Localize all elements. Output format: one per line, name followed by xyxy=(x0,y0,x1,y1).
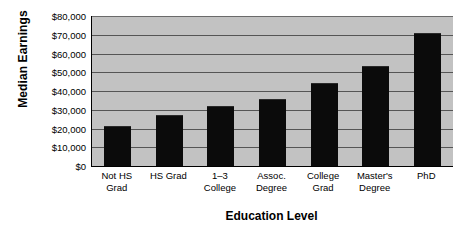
x-tick-label: 1–3 College xyxy=(194,170,246,193)
bars-group xyxy=(92,16,453,166)
x-tick-label-line: Not HS xyxy=(92,170,142,182)
x-tick-label-line: HS Grad xyxy=(144,170,194,182)
y-axis-title: Median Earnings xyxy=(16,0,30,134)
y-tick-label: $40,000 xyxy=(30,86,86,97)
y-tick-label: $10,000 xyxy=(30,142,86,153)
x-tick-label-line: Master's xyxy=(350,170,400,182)
bar-slot xyxy=(350,16,402,166)
x-tick-label: HS Grad xyxy=(143,170,195,193)
bar-slot xyxy=(401,16,453,166)
y-tick-label: $70,000 xyxy=(30,29,86,40)
y-tick-label: $30,000 xyxy=(30,104,86,115)
x-tick-label: CollegeGrad xyxy=(297,170,349,193)
y-tick-label: $20,000 xyxy=(30,123,86,134)
bar xyxy=(207,106,234,166)
y-tick-label: $0 xyxy=(30,161,86,172)
bar xyxy=(259,99,286,166)
bar xyxy=(362,66,389,166)
y-tick-label: $80,000 xyxy=(30,11,86,22)
bar-slot xyxy=(247,16,299,166)
x-tick-label: PhD xyxy=(400,170,452,193)
plot-area xyxy=(91,16,453,167)
y-tick-label: $50,000 xyxy=(30,67,86,78)
x-tick-label: Master'sDegree xyxy=(349,170,401,193)
bar-slot xyxy=(195,16,247,166)
x-tick-label-line: 1–3 College xyxy=(195,170,245,193)
bar-slot xyxy=(144,16,196,166)
x-tick-label-line: Grad xyxy=(298,182,348,194)
x-tick-label-line: College xyxy=(298,170,348,182)
x-axis-title: Education Level xyxy=(91,209,452,223)
y-axis-tick-labels: $0$10,000$20,000$30,000$40,000$50,000$60… xyxy=(30,16,86,166)
y-tick-label: $60,000 xyxy=(30,48,86,59)
bar xyxy=(311,83,338,166)
x-tick-label-line: PhD xyxy=(401,170,451,182)
bar xyxy=(414,33,441,166)
bar-chart: Median Earnings $0$10,000$20,000$30,000$… xyxy=(0,0,468,232)
x-axis-tick-labels: Not HSGradHS Grad1–3 CollegeAssoc.Degree… xyxy=(91,170,452,193)
x-tick-label-line: Assoc. xyxy=(247,170,297,182)
x-tick-label-line: Grad xyxy=(92,182,142,194)
bar-slot xyxy=(92,16,144,166)
bar xyxy=(156,115,183,166)
x-tick-label-line: Degree xyxy=(247,182,297,194)
x-tick-label-line: Degree xyxy=(350,182,400,194)
bar xyxy=(104,126,131,166)
bar-slot xyxy=(298,16,350,166)
x-tick-label: Not HSGrad xyxy=(91,170,143,193)
x-tick-label: Assoc.Degree xyxy=(246,170,298,193)
